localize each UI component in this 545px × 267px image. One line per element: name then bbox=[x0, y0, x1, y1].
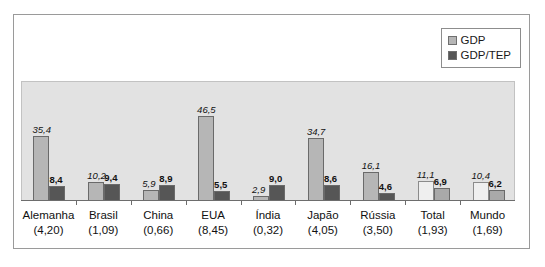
category-label-name: EUA bbox=[201, 209, 225, 221]
bar-gdp-tep[interactable] bbox=[324, 185, 340, 201]
bar-value-label-gdp-tep: 6,2 bbox=[489, 179, 502, 189]
category-label: Mundo(1,69) bbox=[448, 208, 528, 237]
bar-value-label-gdp-tep: 5,5 bbox=[214, 180, 227, 190]
bar-group: 16,14,6 bbox=[363, 82, 395, 201]
bar-gdp[interactable] bbox=[88, 182, 104, 201]
category-label-name: Japão bbox=[307, 209, 338, 221]
category-label-name: Brasil bbox=[89, 209, 118, 221]
bar-gdp-tep[interactable] bbox=[269, 185, 285, 201]
category-label-name: Índia bbox=[256, 209, 281, 221]
legend-label-gdp: GDP bbox=[461, 34, 486, 47]
category-label-name: Total bbox=[421, 209, 445, 221]
bar-value-label-gdp-tep: 8,6 bbox=[324, 174, 337, 184]
bar-group: 5,98,9 bbox=[143, 82, 175, 201]
bar-group: 11,16,9 bbox=[418, 82, 450, 201]
bar-gdp[interactable] bbox=[418, 181, 434, 201]
bar-value-label-gdp: 5,9 bbox=[142, 179, 155, 189]
legend-label-gdp-tep: GDP/TEP bbox=[461, 49, 511, 62]
x-axis-tick bbox=[76, 201, 77, 205]
bar-group: 34,78,6 bbox=[308, 82, 340, 201]
bar-value-label-gdp-tep: 4,6 bbox=[379, 182, 392, 192]
x-axis-tick bbox=[350, 201, 351, 205]
legend-item-gdp[interactable]: GDP bbox=[448, 33, 511, 48]
category-label-value: (1,69) bbox=[448, 223, 528, 238]
chart-figure: GDP GDP/TEP 35,48,410,29,45,98,946,55,52… bbox=[13, 14, 530, 249]
x-axis-tick bbox=[295, 201, 296, 205]
bar-value-label-gdp-tep: 8,4 bbox=[49, 175, 62, 185]
bar-group: 2,99,0 bbox=[253, 82, 285, 201]
bar-value-label-gdp: 10,4 bbox=[472, 171, 491, 181]
x-axis-tick bbox=[186, 201, 187, 205]
chart-legend: GDP GDP/TEP bbox=[441, 28, 521, 68]
x-axis-tick bbox=[460, 201, 461, 205]
bar-group: 10,29,4 bbox=[88, 82, 120, 201]
category-label-name: Rússia bbox=[360, 209, 395, 221]
bar-value-label-gdp: 10,2 bbox=[87, 171, 106, 181]
bar-value-label-gdp: 46,5 bbox=[197, 105, 216, 115]
bar-gdp[interactable] bbox=[363, 172, 379, 201]
bar-value-label-gdp: 16,1 bbox=[362, 161, 381, 171]
x-axis-line bbox=[21, 200, 515, 201]
category-label-name: Mundo bbox=[470, 209, 505, 221]
category-label-name: China bbox=[143, 209, 173, 221]
bar-value-label-gdp-tep: 8,9 bbox=[159, 174, 172, 184]
bar-value-label-gdp-tep: 9,4 bbox=[104, 173, 117, 183]
x-axis-tick bbox=[241, 201, 242, 205]
bar-group: 10,46,2 bbox=[473, 82, 505, 201]
bar-value-label-gdp: 35,4 bbox=[32, 125, 51, 135]
bar-gdp[interactable] bbox=[308, 138, 324, 202]
bar-group: 46,55,5 bbox=[198, 82, 230, 201]
legend-swatch-gdp-tep bbox=[448, 51, 457, 60]
bar-value-label-gdp: 34,7 bbox=[307, 127, 326, 137]
bar-value-label-gdp-tep: 6,9 bbox=[434, 177, 447, 187]
bar-gdp-tep[interactable] bbox=[49, 186, 65, 201]
bar-gdp[interactable] bbox=[198, 116, 214, 201]
legend-item-gdp-tep[interactable]: GDP/TEP bbox=[448, 48, 511, 63]
bar-gdp-tep[interactable] bbox=[104, 184, 120, 201]
bar-value-label-gdp: 2,9 bbox=[252, 185, 265, 195]
bar-value-label-gdp-tep: 9,0 bbox=[269, 174, 282, 184]
x-axis-tick bbox=[131, 201, 132, 205]
x-axis-tick bbox=[405, 201, 406, 205]
bar-group: 35,48,4 bbox=[33, 82, 65, 201]
bar-gdp[interactable] bbox=[33, 136, 49, 201]
bar-gdp[interactable] bbox=[473, 182, 489, 201]
plot-area: 35,48,410,29,45,98,946,55,52,99,034,78,6… bbox=[21, 81, 515, 201]
legend-swatch-gdp bbox=[448, 36, 457, 45]
bar-gdp-tep[interactable] bbox=[159, 185, 175, 201]
bar-value-label-gdp: 11,1 bbox=[417, 170, 435, 180]
